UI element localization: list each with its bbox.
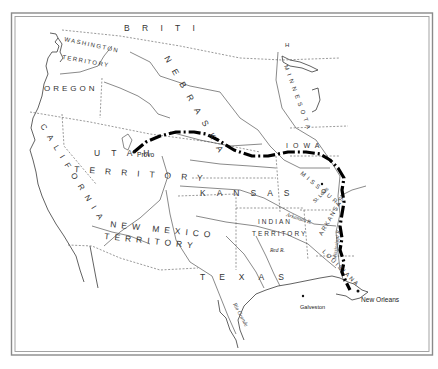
label-nebraska: NEBRASKA [162,54,230,161]
border-oregon-east [100,78,102,118]
rio-grande [166,190,236,334]
label-iowa: IOWA [286,142,324,149]
label-utah-territory: TERRITORY [74,164,213,184]
border-iowa-minnesota [290,126,348,128]
label-indian: INDIAN [258,218,292,225]
snake-river [104,82,170,118]
label-texas: TEXAS [200,272,298,282]
label-kansas: KANSAS [200,188,301,198]
label-british: B R I T I [124,23,200,33]
city-galveston: Galveston [300,304,325,310]
pacific-coastline [30,33,84,282]
historical-map: B R I T I H WASHINGTON TERRITORY OREGON … [0,0,438,369]
baja-coast [90,246,98,288]
route-line [134,132,350,290]
kansas-river [190,160,276,168]
label-washington: WASHINGTON [64,36,120,54]
river-label-rio-grande: Rio Grande [232,301,250,328]
new-orleans-marker [357,290,360,293]
border-missouri-west [276,156,280,212]
river-label-mississippi: Mississippi R. [331,229,341,261]
city-provo: Provo [137,151,155,158]
city-new-orleans: New Orleans [361,296,400,303]
label-minnesota: MINNESOTA [283,64,313,133]
label-british-h: H [285,42,291,48]
river-label-red: Red R. [269,247,285,253]
label-washington-territory: TERRITORY [62,54,110,68]
label-indian-territory: TERRITORY [252,230,307,237]
lake-michigan [312,88,320,112]
label-oregon: OREGON [44,84,98,93]
galveston-marker [302,295,304,297]
